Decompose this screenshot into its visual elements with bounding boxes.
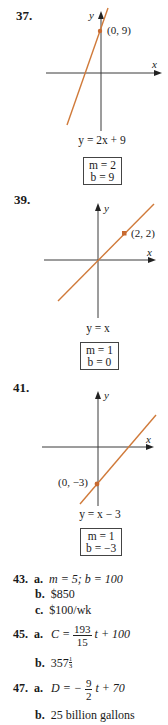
slope-value: m = 1 xyxy=(86,344,113,356)
graph-39 xyxy=(0,180,168,325)
y-axis-arrow-icon xyxy=(95,391,101,399)
numerator: 193 xyxy=(73,623,92,636)
equation-rhs: t + 100 xyxy=(95,627,130,641)
slope-intercept-box: m = 1 b = −3 xyxy=(80,528,122,556)
problem-number-45: 45. xyxy=(13,627,28,641)
intercept-point xyxy=(98,29,102,33)
part-label: c. xyxy=(35,603,43,617)
graph-line xyxy=(58,204,154,301)
equation-lhs: C = xyxy=(51,627,70,641)
denominator: 2 xyxy=(85,690,93,702)
point-label: (0, 9) xyxy=(107,24,131,36)
y-axis-arrow-icon xyxy=(98,11,104,19)
part-label: a. xyxy=(34,681,43,695)
denominator: 3 xyxy=(69,663,73,669)
problem-number-47: 47. xyxy=(13,681,28,695)
slope-value: m = 2 xyxy=(89,159,116,171)
answer-43-c: c. $100/wk xyxy=(35,603,91,618)
marked-point xyxy=(122,231,127,236)
y-axis-label: y xyxy=(104,389,109,401)
answer-43-b: b. $850 xyxy=(35,587,75,602)
part-label: b. xyxy=(35,587,45,601)
equation-lhs: D = − xyxy=(51,681,82,695)
part-label: b. xyxy=(35,708,45,722)
slope-value: m = 1 xyxy=(86,530,116,542)
part-label: a. xyxy=(34,572,43,586)
part-label: a. xyxy=(34,627,43,641)
fraction: 193 15 xyxy=(73,623,92,648)
graph-line xyxy=(80,415,156,504)
x-axis-label: x xyxy=(147,246,152,258)
answer-text: m = 5; b = 100 xyxy=(49,572,123,586)
problem-number-43: 43. xyxy=(13,572,28,586)
point-label: (2, 2) xyxy=(131,227,155,239)
answer-45-b: b. 35713 xyxy=(35,656,72,671)
answer-47-a: 47. a. D = − 9 2 t + 70 xyxy=(13,677,125,702)
answer-text: $100/wk xyxy=(49,603,91,617)
answer-text: $850 xyxy=(51,587,75,601)
answer-text: 25 billion gallons xyxy=(51,708,135,722)
y-axis-label: y xyxy=(104,202,109,214)
point-label: (0, −3) xyxy=(58,476,88,488)
y-axis-arrow-icon xyxy=(95,203,101,211)
denominator: 15 xyxy=(73,636,92,648)
graph-line xyxy=(67,8,108,125)
x-axis-arrow-icon xyxy=(154,70,162,76)
mixed-fraction: 13 xyxy=(69,656,73,669)
part-label: b. xyxy=(35,656,45,670)
equation: y = x − 3 xyxy=(70,508,130,520)
numerator: 9 xyxy=(85,677,93,690)
equation: y = x xyxy=(73,322,123,334)
y-axis-label: y xyxy=(89,9,94,21)
answer-45-a: 45. a. C = 193 15 t + 100 xyxy=(13,623,130,648)
fraction: 9 2 xyxy=(85,677,93,702)
x-axis-label: x xyxy=(152,58,157,70)
answer-whole: 357 xyxy=(51,656,69,670)
x-axis-label: x xyxy=(146,433,151,445)
answer-47-b: b. 25 billion gallons xyxy=(35,708,135,723)
equation-rhs: t + 70 xyxy=(95,681,124,695)
intercept-value: b = −3 xyxy=(86,542,116,554)
intercept-point xyxy=(95,482,100,487)
answer-43-a: 43. a. m = 5; b = 100 xyxy=(13,572,123,587)
graph-37 xyxy=(0,0,168,135)
equation: y = 2x + 9 xyxy=(72,134,132,146)
